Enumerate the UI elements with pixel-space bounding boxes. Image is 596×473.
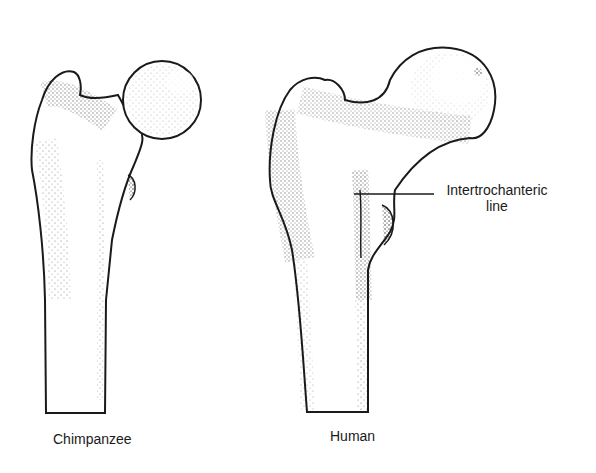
human-label: Human (330, 428, 375, 444)
intertrochanteric-label-line2: line (427, 198, 567, 214)
human-femur-drawing (270, 48, 496, 412)
chimpanzee-femur-drawing (31, 61, 201, 413)
chimpanzee-label: Chimpanzee (53, 431, 132, 447)
intertrochanteric-label-line1: Intertrochanteric (427, 182, 567, 198)
femur-comparison-figure (0, 0, 596, 473)
intertrochanteric-line-label: Intertrochanteric line (427, 182, 567, 214)
